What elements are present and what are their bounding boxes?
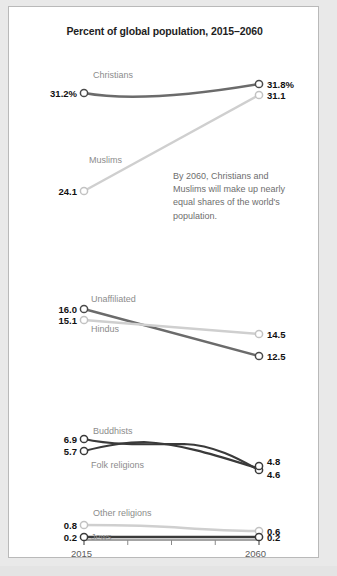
series-label-jews: Jews	[91, 532, 112, 542]
marker-hindus-2060	[255, 330, 262, 337]
marker-jews-2015	[80, 533, 87, 540]
marker-unaffiliated-2015	[80, 305, 87, 312]
chart-card: Percent of global population, 2015–2060	[8, 6, 319, 558]
value-label-unaffiliated-2060: 12.5	[267, 351, 286, 362]
value-label-muslims-2060: 31.1	[267, 90, 286, 101]
value-label-jews-2060: 0.2	[267, 532, 280, 543]
value-label-christians-2015: 31.2%	[19, 88, 77, 99]
marker-christians-2015	[80, 89, 87, 96]
series-label-other-religions: Other religions	[93, 508, 152, 518]
marker-unaffiliated-2060	[255, 352, 262, 359]
series-label-folk-religions: Folk religions	[91, 460, 144, 470]
series-line-other-religions	[84, 525, 257, 531]
series-label-hindus: Hindus	[91, 324, 119, 334]
x-axis-label-2060: 2060	[245, 548, 266, 559]
series-label-christians: Christians	[93, 70, 133, 80]
x-axis-label-2015: 2015	[71, 548, 92, 559]
series-label-unaffiliated: Unaffiliated	[91, 294, 136, 304]
marker-other-religions-2015	[80, 521, 87, 528]
value-label-buddhists-2060: 4.6	[267, 469, 280, 480]
marker-buddhists-2015	[80, 435, 87, 442]
marker-hindus-2015	[80, 316, 87, 323]
value-label-christians-2060: 31.8%	[267, 79, 294, 90]
value-label-folk-religions-2060: 4.8	[267, 456, 280, 467]
value-label-hindus-2060: 14.5	[267, 329, 286, 340]
value-label-jews-2015: 0.2	[19, 532, 77, 543]
marker-christians-2060	[255, 80, 262, 87]
marker-folk-religions-2015	[80, 447, 87, 454]
marker-muslims-2015	[80, 187, 87, 194]
series-label-buddhists: Buddhists	[93, 426, 133, 436]
chart-annotation: By 2060, Christians and Muslims will mak…	[173, 170, 293, 223]
marker-muslims-2060	[255, 91, 262, 98]
value-label-buddhists-2015: 6.9	[19, 434, 77, 445]
value-label-unaffiliated-2015: 16.0	[19, 304, 77, 315]
value-label-hindus-2015: 15.1	[19, 315, 77, 326]
marker-jews-2060	[255, 533, 262, 540]
value-label-other-religions-2015: 0.8	[19, 520, 77, 531]
marker-folk-religions-2060	[255, 462, 262, 469]
value-label-muslims-2015: 24.1	[19, 186, 77, 197]
page-bottom-band	[0, 566, 337, 576]
series-label-muslims: Muslims	[89, 155, 122, 165]
series-line-christians	[84, 84, 259, 97]
value-label-folk-religions-2015: 5.7	[19, 446, 77, 457]
